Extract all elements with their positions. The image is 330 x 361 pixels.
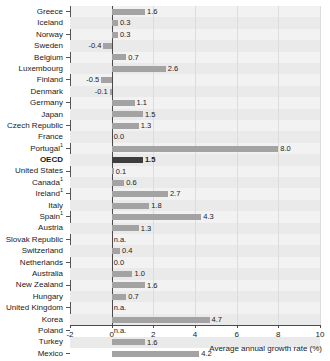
category-label-ireland: Ireland1	[0, 188, 66, 199]
tick-mark	[112, 325, 113, 328]
value-label-oecd: 1.5	[145, 154, 155, 165]
gridline	[195, 6, 196, 325]
category-label-netherlands: Netherlands	[0, 257, 66, 268]
bar-turkey	[112, 339, 145, 345]
bar-czech-republic	[112, 123, 139, 129]
category-label-luxembourg: Luxembourg	[0, 63, 66, 74]
category-label-poland: Poland	[0, 325, 66, 336]
category-tick	[66, 34, 70, 35]
tick-label: -2	[58, 330, 82, 340]
bar-australia	[112, 271, 133, 277]
value-label-austria: 1.3	[141, 223, 151, 234]
category-tick	[66, 79, 70, 80]
category-tick	[66, 102, 70, 103]
bar-japan	[112, 111, 143, 117]
value-label-korea: 4.7	[212, 314, 222, 325]
bar-austria	[112, 225, 139, 231]
category-tick	[66, 57, 70, 58]
category-tick	[66, 11, 70, 12]
value-label-norway: 0.3	[120, 29, 130, 40]
category-tick	[66, 285, 70, 286]
bar-germany	[112, 100, 135, 106]
value-label-france: 0.0	[114, 131, 124, 142]
value-label-portugal: 8.0	[280, 143, 290, 154]
bar-iceland	[112, 20, 118, 26]
bar-hungary	[112, 294, 127, 300]
category-tick	[66, 171, 70, 172]
value-label-spain: 4.3	[203, 211, 213, 222]
bar-sweden	[103, 43, 111, 49]
tick-label: 6	[225, 330, 249, 340]
category-tick	[66, 307, 70, 308]
gridline	[237, 6, 238, 325]
bar-norway	[112, 32, 118, 38]
tick-mark	[320, 325, 321, 328]
bar-ireland	[112, 191, 168, 197]
footnote-marker: 1	[60, 176, 63, 182]
value-label-united-states: 0.1	[116, 166, 126, 177]
bar-canada	[112, 180, 125, 186]
category-tick	[66, 262, 70, 263]
bar-oecd	[112, 157, 143, 163]
value-label-netherlands: 0.0	[114, 257, 124, 268]
tick-mark	[237, 325, 238, 328]
category-label-slovak-republic: Slovak Republic	[0, 234, 66, 245]
category-label-austria: Austria	[0, 222, 66, 233]
footnote-marker: 1	[60, 188, 63, 194]
tick-label: 4	[183, 330, 207, 340]
bar-spain	[112, 214, 202, 220]
bar-denmark	[110, 89, 112, 95]
bar-switzerland	[112, 248, 120, 254]
category-label-new-zealand: New Zealand	[0, 279, 66, 290]
bar-finland	[101, 77, 111, 83]
tick-label: 8	[266, 330, 290, 340]
bar-belgium	[112, 54, 127, 60]
tick-mark	[153, 325, 154, 328]
value-label-australia: 1.0	[135, 268, 145, 279]
category-label-czech-republic: Czech Republic	[0, 120, 66, 131]
value-label-luxembourg: 2.6	[168, 63, 178, 74]
category-label-united-kingdom: United Kingdom	[0, 302, 66, 313]
category-tick	[66, 148, 70, 149]
category-label-japan: Japan	[0, 109, 66, 120]
category-tick	[66, 216, 70, 217]
category-label-mexico: Mexico	[0, 348, 66, 359]
tick-label: 10	[308, 330, 330, 340]
value-label-greece: 1.6	[147, 6, 157, 17]
category-label-sweden: Sweden	[0, 40, 66, 51]
plot-area: 1.60.30.3-0.40.72.6-0.5-0.11.11.51.30.08…	[70, 6, 320, 325]
category-tick	[66, 193, 70, 194]
value-label-japan: 1.5	[145, 109, 155, 120]
x-axis-title: Average annual growth rate (%)	[209, 344, 322, 353]
value-label-hungary: 0.7	[128, 291, 138, 302]
bar-new-zealand	[112, 282, 145, 288]
tick-label: 2	[141, 330, 165, 340]
value-label-switzerland: 0.4	[122, 245, 132, 256]
tick-mark	[70, 325, 71, 328]
value-label-slovak-republic: n.a.	[114, 234, 127, 245]
value-label-germany: 1.1	[137, 97, 147, 108]
value-label-belgium: 0.7	[128, 52, 138, 63]
category-label-greece: Greece	[0, 6, 66, 17]
category-label-australia: Australia	[0, 268, 66, 279]
tick-mark	[195, 325, 196, 328]
bar-mexico	[112, 351, 200, 357]
category-tick	[66, 353, 70, 354]
bar-chart: GreeceIcelandNorwaySwedenBelgiumLuxembou…	[0, 0, 330, 361]
category-label-finland: Finland	[0, 74, 66, 85]
tick-mark	[278, 325, 279, 328]
category-label-turkey: Turkey	[0, 336, 66, 347]
value-label-iceland: 0.3	[120, 17, 130, 28]
value-label-czech-republic: 1.3	[141, 120, 151, 131]
category-label-denmark: Denmark	[0, 86, 66, 97]
category-tick	[66, 125, 70, 126]
category-label-france: France	[0, 131, 66, 142]
bar-greece	[112, 9, 145, 15]
bar-luxembourg	[112, 66, 166, 72]
category-label-oecd: OECD	[0, 154, 66, 165]
category-label-hungary: Hungary	[0, 291, 66, 302]
category-label-united-states: United States	[0, 165, 66, 176]
footnote-marker: 1	[60, 210, 63, 216]
category-label-belgium: Belgium	[0, 52, 66, 63]
value-label-italy: 1.8	[151, 200, 161, 211]
